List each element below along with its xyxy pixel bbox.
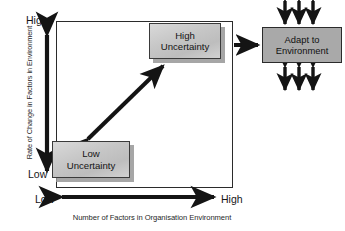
y-axis-title: Rate of Change in Factors in Environment (25, 8, 34, 178)
y-axis-high-label: High (26, 14, 48, 26)
node-low-uncertainty-line1: Low (82, 148, 100, 159)
adapt-top-environment-arrows (285, 1, 313, 24)
x-axis-high-label: High (221, 193, 243, 205)
x-axis-low-label: Low (35, 193, 54, 205)
node-high-uncertainty[interactable]: High Uncertainty (149, 23, 221, 59)
x-axis-title: Number of Factors in Organisation Enviro… (34, 213, 270, 222)
node-high-uncertainty-line2: Uncertainty (161, 41, 210, 52)
node-adapt-line2: Environment (276, 45, 329, 56)
node-adapt-to-environment[interactable]: Adapt to Environment (262, 27, 342, 63)
y-axis-low-label: Low (28, 168, 47, 180)
node-low-uncertainty[interactable]: Low Uncertainty (52, 141, 130, 178)
node-adapt-line1: Adapt to (285, 34, 320, 45)
uncertainty-matrix-diagram: Rate of Change in Factors in Environment… (0, 0, 345, 231)
adapt-bottom-environment-arrows (285, 67, 313, 90)
node-high-uncertainty-line1: High (175, 30, 195, 41)
node-low-uncertainty-line2: Uncertainty (67, 160, 116, 171)
